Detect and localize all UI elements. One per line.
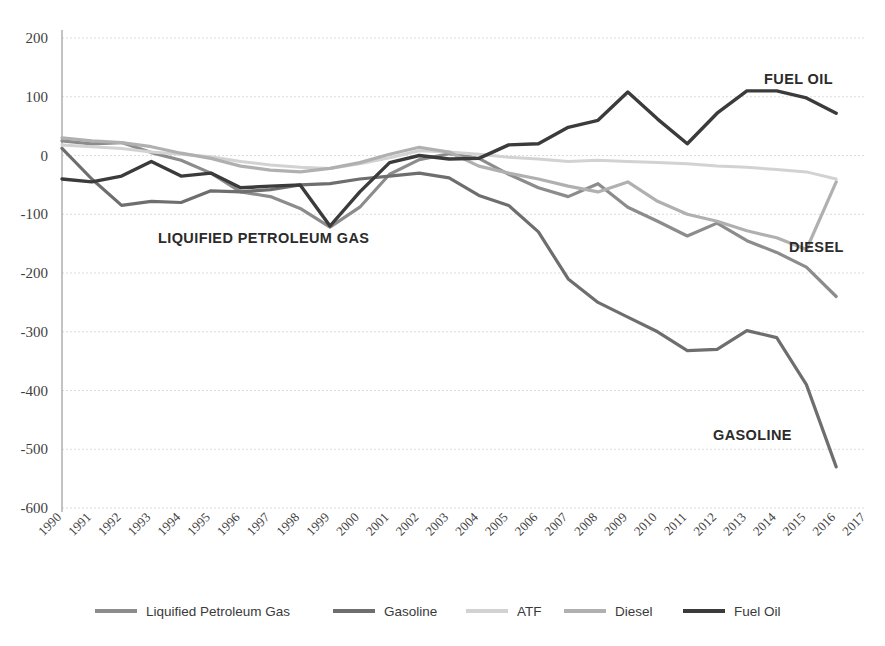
x-tick-label: 2000 [333,510,362,539]
legend-label-atf: ATF [517,604,542,619]
x-tick-label: 2012 [690,510,719,539]
x-tick-label: 2001 [363,510,392,539]
annotation-fuel-oil: FUEL OIL [764,71,833,87]
x-tick-label: 2009 [601,510,630,539]
x-tick-label: 2002 [392,510,421,539]
data-series [62,91,836,467]
series-line-gasoline [62,148,836,467]
x-tick-label: 1991 [65,510,94,539]
legend-label-diesel: Diesel [615,604,653,619]
y-tick-label: -200 [21,265,49,281]
y-tick-label: -100 [21,206,49,222]
x-tick-label: 1996 [214,509,243,538]
y-tick-label: 100 [26,89,49,105]
y-axis-tick-labels: 2001000-100-200-300-400-500-600 [21,30,49,516]
x-tick-label: 1992 [95,510,124,539]
line-chart: 2001000-100-200-300-400-500-600 19901991… [0,0,885,646]
x-tick-label: 2005 [482,510,511,539]
x-tick-label: 2015 [780,510,809,539]
x-tick-label: 2011 [661,510,690,539]
y-tick-label: -500 [21,441,49,457]
x-tick-label: 2006 [512,509,541,538]
y-tick-label: 0 [41,148,49,164]
y-tick-label: -400 [21,383,49,399]
legend-label-gasoline: Gasoline [384,604,437,619]
annotation-diesel: DIESEL [789,239,844,255]
x-tick-label: 1995 [184,510,213,539]
x-tick-label: 2007 [541,509,570,538]
x-axis-tick-labels: 1990199119921993199419951996199719981999… [35,509,868,538]
chart-legend: Liquified Petroleum GasGasolineATFDiesel… [95,604,781,619]
annotation-liquified-petroleum-gas: LIQUIFIED PETROLEUM GAS [158,230,369,246]
x-tick-label: 2014 [750,509,779,538]
y-tick-label: -300 [21,324,49,340]
annotation-gasoline: GASOLINE [713,427,792,443]
y-tick-label: 200 [26,30,49,46]
series-annotations: LIQUIFIED PETROLEUM GASFUEL OILDIESELGAS… [158,71,844,443]
x-tick-label: 2004 [452,509,481,538]
x-tick-label: 2008 [571,510,600,539]
x-tick-label: 2003 [422,510,451,539]
legend-label-liquified-petroleum-gas: Liquified Petroleum Gas [146,604,290,619]
x-tick-label: 1998 [273,510,302,539]
x-tick-label: 1997 [244,509,273,538]
x-tick-label: 2013 [720,510,749,539]
x-tick-label: 1999 [303,510,332,539]
x-tick-label: 2017 [839,509,868,538]
x-tick-label: 2016 [809,509,838,538]
x-tick-label: 1994 [154,509,183,538]
x-tick-label: 1993 [124,510,153,539]
y-tick-label: -600 [21,500,49,516]
chart-canvas: 2001000-100-200-300-400-500-600 19901991… [0,0,885,646]
legend-label-fuel-oil: Fuel Oil [734,604,781,619]
x-tick-label: 2010 [631,510,660,539]
